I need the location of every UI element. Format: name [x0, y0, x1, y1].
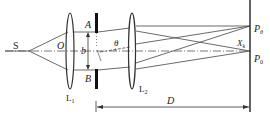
label-separation: b [81, 45, 86, 56]
label-point-zero: P0 [253, 53, 263, 65]
label-lens2: L2 [139, 84, 148, 95]
ray-source-bottom [29, 51, 68, 70]
slit-screen-top [95, 13, 98, 33]
slit-screen-bottom [95, 69, 98, 89]
label-lens1: L1 [66, 93, 75, 104]
optics-diagram: S O L1 L2 A B b θ Pθ P0 Xk D [0, 0, 270, 123]
label-crossing: Xk [236, 38, 246, 49]
label-distance: D [166, 95, 175, 106]
label-angle: θ [114, 38, 119, 48]
label-point-theta: Pθ [253, 23, 263, 35]
label-source: S [13, 40, 19, 51]
label-slit-top: A [84, 19, 92, 30]
label-slit-bottom: B [85, 73, 91, 84]
label-lens1-center: O [57, 40, 64, 51]
